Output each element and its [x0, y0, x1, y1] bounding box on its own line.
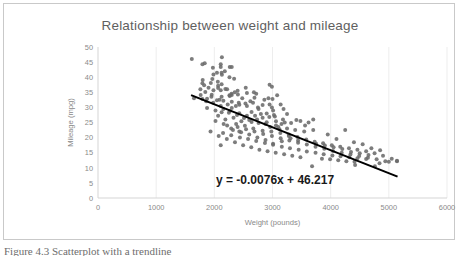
svg-text:5: 5: [89, 179, 93, 188]
svg-text:35: 35: [85, 88, 93, 97]
trendline-equation-label: y = -0.0076x + 46.217: [216, 173, 334, 187]
svg-text:5000: 5000: [381, 203, 397, 212]
chart-canvas: 05101520253035404550 0100020003000400050…: [4, 4, 456, 241]
y-axis-title: Mileage (mpg): [66, 98, 75, 147]
svg-text:0: 0: [89, 194, 93, 203]
svg-text:50: 50: [85, 43, 93, 52]
svg-text:25: 25: [85, 118, 93, 127]
svg-text:1000: 1000: [148, 203, 164, 212]
figure-caption: Figure 4.3 Scatterplot with a trendline: [4, 245, 304, 256]
svg-text:20: 20: [85, 133, 93, 142]
figure-frame: Relationship between weight and mileage …: [3, 3, 455, 240]
svg-text:2000: 2000: [206, 203, 222, 212]
x-axis-title: Weight (pounds): [245, 218, 301, 227]
x-axis-tick-labels: 0100020003000400050006000: [96, 203, 455, 212]
data-point-group: [190, 55, 399, 168]
y-axis-tick-labels: 05101520253035404550: [85, 43, 93, 203]
scatter-chart: 05101520253035404550 0100020003000400050…: [4, 4, 456, 241]
trendline: [191, 95, 397, 176]
svg-text:30: 30: [85, 103, 93, 112]
svg-text:40: 40: [85, 73, 93, 82]
svg-text:4000: 4000: [322, 203, 338, 212]
svg-text:6000: 6000: [439, 203, 455, 212]
svg-text:0: 0: [96, 203, 100, 212]
svg-text:10: 10: [85, 164, 93, 173]
svg-text:3000: 3000: [264, 203, 280, 212]
svg-text:15: 15: [85, 148, 93, 157]
svg-text:45: 45: [85, 58, 93, 67]
